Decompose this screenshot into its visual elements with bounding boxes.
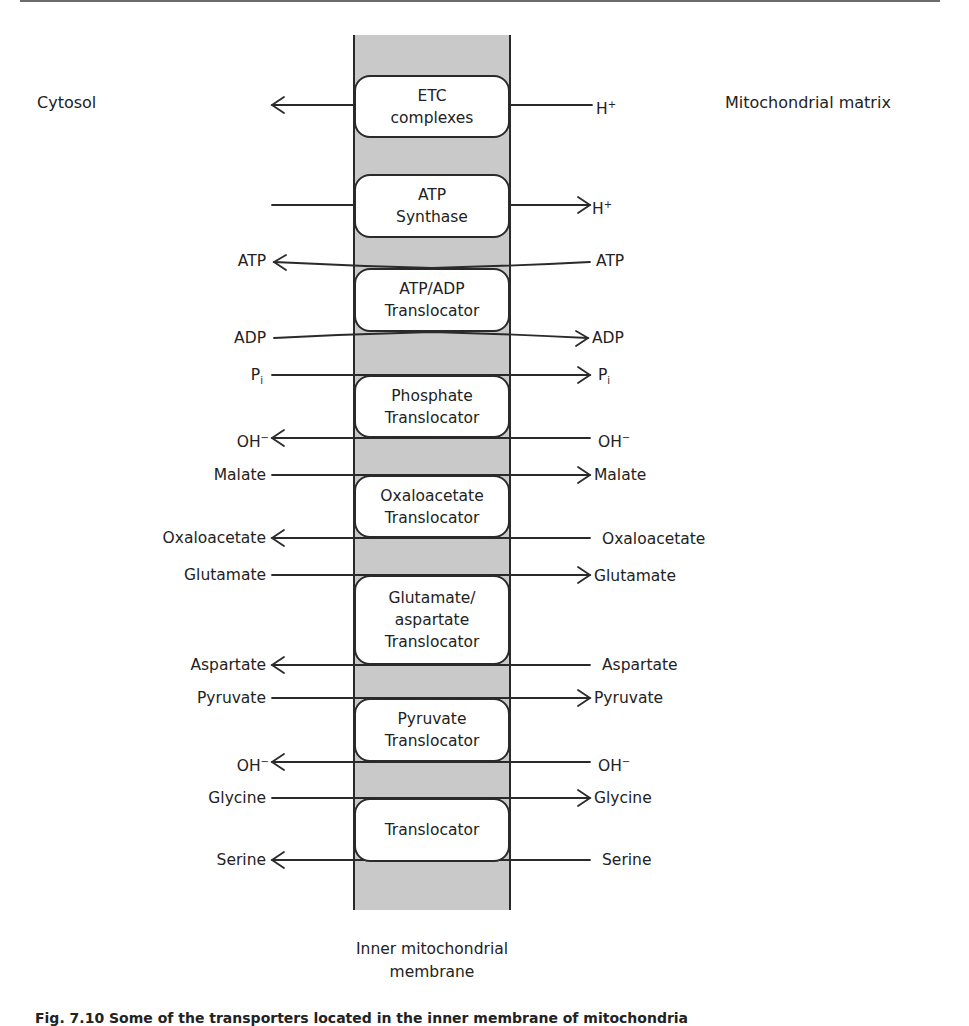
label-pyruvate-matrix: Pyruvate <box>594 689 663 707</box>
cytosol-label: Cytosol <box>37 93 96 112</box>
label-pi-matrix: Pi <box>598 366 610 390</box>
label-pi-cytosol: Pi <box>251 366 263 390</box>
box-pyruvate-translocator: Pyruvate Translocator <box>354 698 510 762</box>
label-oh-cytosol-1: OH− <box>237 429 269 451</box>
label-serine-matrix: Serine <box>602 851 651 869</box>
box-line: complexes <box>391 107 474 129</box>
box-line: Synthase <box>396 206 468 228</box>
label-oh-matrix-1: OH− <box>598 429 630 451</box>
box-line: ATP/ADP <box>399 278 464 300</box>
label-malate-cytosol: Malate <box>214 466 266 484</box>
label-glutamate-matrix: Glutamate <box>594 567 676 585</box>
box-line: Pyruvate <box>397 708 466 730</box>
box-line: Translocator <box>385 730 480 752</box>
box-atp-adp-translocator: ATP/ADP Translocator <box>354 268 510 332</box>
label-h-plus-synthase: H+ <box>592 196 612 218</box>
label-atp-matrix: ATP <box>596 252 624 270</box>
label-glycine-cytosol: Glycine <box>208 789 266 807</box>
label-pyruvate-cytosol: Pyruvate <box>197 689 266 707</box>
box-phosphate-translocator: Phosphate Translocator <box>354 375 510 438</box>
label-serine-cytosol: Serine <box>217 851 266 869</box>
box-line: aspartate <box>395 609 469 631</box>
label-malate-matrix: Malate <box>594 466 646 484</box>
box-glutamate-aspartate-translocator: Glutamate/ aspartate Translocator <box>354 575 510 665</box>
membrane-label: Inner mitochondrial membrane <box>300 938 564 984</box>
box-line: Phosphate <box>391 385 473 407</box>
box-glycine-serine-translocator: Translocator <box>354 798 510 862</box>
box-line: Translocator <box>385 300 480 322</box>
membrane-label-line-1: Inner mitochondrial <box>300 938 564 961</box>
matrix-label: Mitochondrial matrix <box>725 93 891 112</box>
label-h-plus-etc: H+ <box>596 96 616 118</box>
label-oxaloacetate-matrix: Oxaloacetate <box>602 530 705 548</box>
figure-caption: Fig. 7.10 Some of the transporters locat… <box>35 1010 688 1026</box>
label-glycine-matrix: Glycine <box>594 789 652 807</box>
box-line: ATP <box>418 184 446 206</box>
label-oxaloacetate-cytosol: Oxaloacetate <box>163 529 266 547</box>
box-line: Translocator <box>385 819 480 841</box>
box-line: Translocator <box>385 507 480 529</box>
box-atp-synthase: ATP Synthase <box>354 174 510 238</box>
label-aspartate-matrix: Aspartate <box>602 656 678 674</box>
label-oh-matrix-2: OH− <box>598 753 630 775</box>
label-oh-cytosol-2: OH− <box>237 753 269 775</box>
label-glutamate-cytosol: Glutamate <box>184 566 266 584</box>
box-line: Translocator <box>385 631 480 653</box>
label-adp-matrix: ADP <box>592 329 624 347</box>
box-line: Glutamate/ <box>388 587 475 609</box>
label-adp-cytosol: ADP <box>234 329 266 347</box>
box-oxaloacetate-translocator: Oxaloacetate Translocator <box>354 475 510 538</box>
label-atp-cytosol: ATP <box>238 252 266 270</box>
label-aspartate-cytosol: Aspartate <box>190 656 266 674</box>
box-line: Oxaloacetate <box>380 485 483 507</box>
box-line: ETC <box>417 85 446 107</box>
box-line: Translocator <box>385 407 480 429</box>
box-etc-complexes: ETC complexes <box>354 75 510 138</box>
inner-membrane <box>354 35 510 910</box>
membrane-label-line-2: membrane <box>300 961 564 984</box>
